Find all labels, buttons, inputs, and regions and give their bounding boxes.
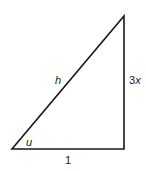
right-triangle-diagram: h u 1 3x — [0, 0, 146, 171]
height-label: 3x — [129, 74, 141, 86]
base-label: 1 — [65, 154, 71, 166]
height-label-variable: x — [134, 74, 141, 86]
hypotenuse-label: h — [55, 74, 61, 86]
triangle-outline — [12, 16, 124, 149]
angle-label: u — [26, 136, 32, 148]
